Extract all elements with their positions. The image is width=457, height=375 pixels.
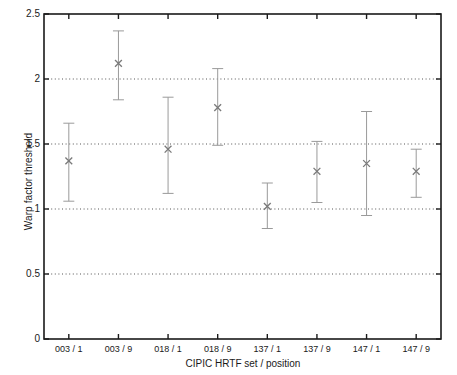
data-point-group — [311, 141, 322, 202]
x-tick-label: 137 / 1 — [254, 344, 282, 354]
data-point-group — [163, 97, 174, 193]
x-tick-label: 147 / 9 — [402, 344, 430, 354]
x-axis-label: CIPIC HRTF set / position — [44, 358, 442, 369]
data-point-group — [113, 31, 124, 100]
x-tick-label: 018 / 1 — [154, 344, 182, 354]
x-tick-label: 003 / 1 — [55, 344, 83, 354]
chart-figure: Warp factor threshold 00.511.522.5 003 /… — [0, 0, 457, 375]
data-point-group — [63, 123, 74, 201]
data-point-group — [262, 183, 273, 229]
data-point-group — [212, 69, 223, 146]
plot-box — [44, 14, 441, 339]
plot-area — [0, 0, 457, 375]
x-tick-label: 137 / 9 — [303, 344, 331, 354]
data-point-group — [411, 149, 422, 197]
x-tick-label: 147 / 1 — [353, 344, 381, 354]
x-tick-label: 003 / 9 — [105, 344, 133, 354]
x-tick-label: 018 / 9 — [204, 344, 232, 354]
data-point-group — [361, 112, 372, 216]
